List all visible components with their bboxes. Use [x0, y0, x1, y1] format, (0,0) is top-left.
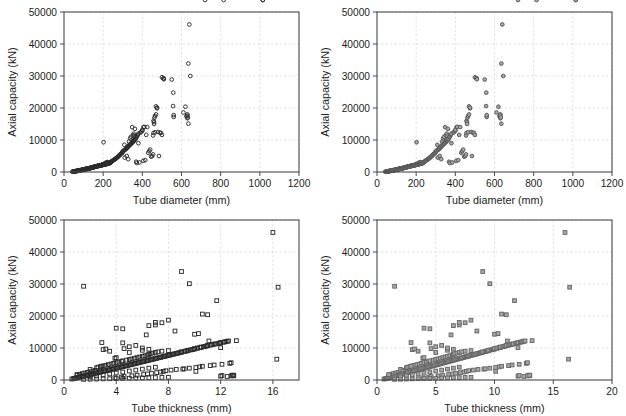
y-tick-label: 10000	[29, 343, 58, 354]
y-tick-label: 30000	[342, 279, 371, 290]
y-axis-title: Axial capacity (kN)	[6, 255, 18, 344]
x-axis-title: Tube diameter (mm)	[446, 194, 543, 206]
data-points	[70, 0, 264, 174]
x-tick-label: 12	[215, 386, 227, 397]
x-tick-label: 0	[61, 386, 67, 397]
y-tick-label: 40000	[29, 39, 58, 50]
x-tick-label: 15	[548, 386, 560, 397]
x-tick-label: 0	[374, 178, 380, 189]
y-tick-label: 40000	[342, 247, 371, 258]
gridlines	[377, 12, 612, 172]
x-tick-label: 5	[433, 386, 439, 397]
scatter-plot-figure: 0100002000030000400005000002004006008001…	[0, 0, 626, 416]
x-axis-title: Tube diameter (mm)	[133, 194, 230, 206]
y-tick-label: 30000	[29, 279, 58, 290]
x-tick-label: 600	[173, 178, 190, 189]
x-axis-title: Tube thickness (mm)	[131, 402, 231, 414]
x-tick-label: 200	[408, 178, 425, 189]
y-tick-label: 0	[364, 167, 370, 178]
gridlines	[377, 220, 612, 380]
y-axis-title: Axial capacity (kN)	[6, 47, 18, 136]
y-axis-title: Axial capacity (kN)	[319, 47, 331, 136]
x-axis-title: Tube thickness (mm)	[444, 402, 544, 414]
data-points	[383, 0, 577, 174]
x-tick-label: 1000	[248, 178, 271, 189]
x-tick-label: 10	[489, 386, 501, 397]
panel-axial-capacity-vs-thickness-open: 010000200003000040000500000481216Tube th…	[0, 208, 313, 416]
x-tick-label: 0	[61, 178, 67, 189]
axes: 0100002000030000400005000002004006008001…	[342, 7, 624, 189]
y-tick-label: 0	[364, 375, 370, 386]
data-points	[382, 231, 571, 382]
x-tick-label: 600	[486, 178, 503, 189]
plot-frame	[64, 220, 299, 380]
y-tick-label: 20000	[342, 311, 371, 322]
y-tick-label: 20000	[29, 103, 58, 114]
y-tick-label: 50000	[29, 215, 58, 226]
x-tick-label: 400	[447, 178, 464, 189]
y-tick-label: 10000	[29, 135, 58, 146]
x-tick-label: 800	[212, 178, 229, 189]
x-tick-label: 20	[606, 386, 618, 397]
x-tick-label: 0	[374, 386, 380, 397]
y-tick-label: 20000	[342, 103, 371, 114]
axes: 010000200003000040000500000481216	[29, 215, 279, 397]
x-tick-label: 200	[95, 178, 112, 189]
y-tick-label: 10000	[342, 135, 371, 146]
x-tick-label: 16	[267, 386, 279, 397]
y-tick-label: 10000	[342, 343, 371, 354]
x-tick-label: 1200	[288, 178, 311, 189]
y-tick-label: 50000	[342, 215, 371, 226]
panel-axial-capacity-vs-diameter-gray: 0100002000030000400005000002004006008001…	[313, 0, 626, 208]
y-axis-title: Axial capacity (kN)	[319, 255, 331, 344]
y-tick-label: 30000	[342, 71, 371, 82]
panel-axial-capacity-vs-thickness-gray: 0100002000030000400005000005101520Tube t…	[313, 208, 626, 416]
x-tick-label: 800	[525, 178, 542, 189]
y-tick-label: 50000	[342, 7, 371, 18]
x-tick-label: 8	[166, 386, 172, 397]
x-tick-label: 1000	[561, 178, 584, 189]
x-tick-label: 4	[113, 386, 119, 397]
y-tick-label: 0	[51, 375, 57, 386]
y-tick-label: 0	[51, 167, 57, 178]
x-tick-label: 1200	[601, 178, 624, 189]
gridlines	[64, 220, 299, 380]
panel-axial-capacity-vs-diameter-open: 0100002000030000400005000002004006008001…	[0, 0, 313, 208]
gridlines	[64, 12, 299, 172]
data-points	[70, 231, 280, 382]
y-tick-label: 30000	[29, 71, 58, 82]
y-tick-label: 40000	[342, 39, 371, 50]
y-tick-label: 20000	[29, 311, 58, 322]
y-tick-label: 40000	[29, 247, 58, 258]
y-tick-label: 50000	[29, 7, 58, 18]
x-tick-label: 400	[134, 178, 151, 189]
axes: 0100002000030000400005000002004006008001…	[29, 7, 311, 189]
